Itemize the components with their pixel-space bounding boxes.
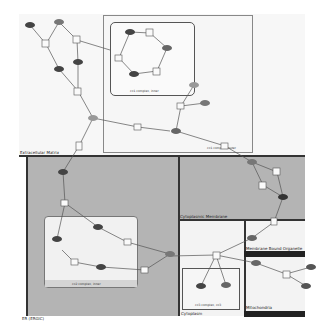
entity-nodes xyxy=(25,19,316,289)
pathway-diagram: Extracellular Matrix ER (ERGIC) Cytoplas… xyxy=(0,0,335,331)
network-edges xyxy=(0,0,335,331)
